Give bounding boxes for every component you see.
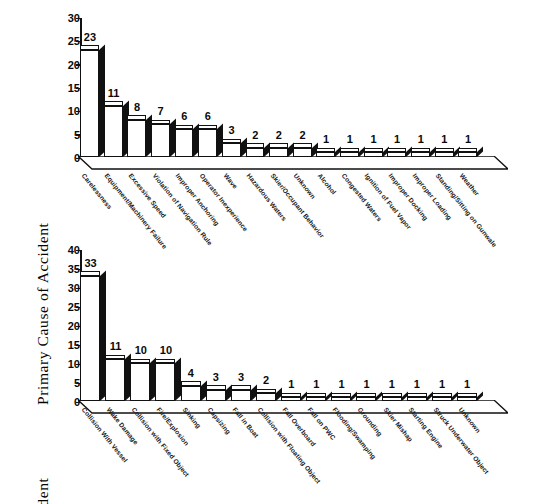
bar-face bbox=[387, 152, 406, 157]
x-label-cause-ignition-of-fuel-vapor: Ignition of Fuel Vapor bbox=[364, 172, 413, 231]
x-label-cause-improper-anchoring: Improper Anchoring bbox=[175, 172, 221, 227]
x-axis-category-labels-type: Collision With VesselWake DamageCollisio… bbox=[0, 406, 535, 496]
bar-top bbox=[256, 389, 276, 394]
bar-face bbox=[222, 143, 241, 157]
x-label-type-collision-with-vessel: Collision With Vessel bbox=[81, 406, 129, 464]
bar-face bbox=[435, 152, 454, 157]
bar-type-wake-damage: 11 bbox=[105, 353, 125, 401]
x-label-type-grounding: Grounding bbox=[357, 406, 384, 437]
x-label-cause-unknown: Unknown bbox=[293, 172, 318, 200]
bar-cause-alcohol: 1 bbox=[316, 146, 335, 157]
bar-value-label: 4 bbox=[188, 368, 194, 379]
bar-top bbox=[181, 381, 201, 386]
x-label-cause-weather: Weather bbox=[459, 172, 481, 197]
bar-cause-equipment-machinery-failure: 11 bbox=[104, 100, 123, 157]
bar-face bbox=[246, 148, 265, 157]
bar-face bbox=[256, 393, 276, 401]
bar-top bbox=[105, 355, 125, 360]
bar-face bbox=[155, 363, 175, 401]
bar-top bbox=[104, 101, 123, 106]
bar-type-fall-overboard: 1 bbox=[281, 391, 301, 401]
bar-value-label: 1 bbox=[313, 379, 319, 390]
bar-value-label: 8 bbox=[134, 102, 140, 113]
bar-face bbox=[181, 386, 201, 401]
bar-top bbox=[80, 45, 99, 50]
bar-type-sinking: 4 bbox=[181, 380, 201, 401]
bar-top bbox=[306, 393, 326, 398]
bar-type-starting-engine: 1 bbox=[407, 391, 427, 401]
chart-primary-cause-of-accident: Primary Cause of Accident 051015202530 2… bbox=[0, 0, 535, 252]
bar-face bbox=[356, 397, 376, 401]
bar-top bbox=[340, 148, 359, 153]
bar-face bbox=[281, 397, 301, 401]
bar-value-label: 10 bbox=[160, 345, 172, 356]
bar-series-type: 33111010433211111111 bbox=[78, 237, 508, 401]
bar-top bbox=[364, 148, 383, 153]
bar-value-label: 1 bbox=[414, 379, 420, 390]
bar-face bbox=[231, 390, 251, 401]
bar-top bbox=[175, 125, 194, 130]
bar-face bbox=[331, 397, 351, 401]
bar-value-label: 7 bbox=[158, 106, 164, 117]
bar-type-collision-with-fixed-object: 10 bbox=[130, 357, 150, 401]
bar-top bbox=[382, 393, 402, 398]
bar-value-label: 1 bbox=[394, 134, 400, 145]
bar-type-flooding-swamping: 1 bbox=[331, 391, 351, 401]
bar-face bbox=[206, 390, 226, 401]
bar-cause-improper-docking: 1 bbox=[387, 146, 406, 157]
bar-face bbox=[407, 397, 427, 401]
bar-type-collision-with-floating-object: 2 bbox=[256, 387, 276, 401]
bar-value-label: 3 bbox=[213, 372, 219, 383]
bar-cause-wave: 3 bbox=[222, 137, 241, 157]
plot-area-cause: 2311876632221111111 bbox=[78, 18, 508, 170]
bar-top bbox=[432, 393, 452, 398]
bar-value-label: 6 bbox=[181, 111, 187, 122]
bar-value-label: 1 bbox=[441, 134, 447, 145]
bar-top bbox=[155, 359, 175, 364]
bar-value-label: 1 bbox=[338, 379, 344, 390]
bar-cause-standing-sitting-on-gunwale: 1 bbox=[435, 146, 454, 157]
bar-value-label: 2 bbox=[252, 130, 258, 141]
bar-cause-improper-anchoring: 6 bbox=[175, 123, 194, 157]
bar-face bbox=[175, 129, 194, 157]
bar-cause-weather: 1 bbox=[458, 146, 477, 157]
bar-top bbox=[206, 385, 226, 390]
bar-face bbox=[80, 50, 99, 157]
x-label-type-fall-in-boat: Fall in Boat bbox=[231, 406, 260, 439]
bar-value-label: 23 bbox=[84, 32, 96, 43]
bar-cause-excessive-speed: 8 bbox=[127, 114, 146, 157]
y-axis-type: 0510152025303540 bbox=[58, 250, 80, 402]
bar-value-label: 1 bbox=[370, 134, 376, 145]
bar-cause-carelessness: 23 bbox=[80, 44, 99, 157]
bar-value-label: 6 bbox=[205, 111, 211, 122]
bar-face bbox=[293, 148, 312, 157]
bar-cause-congested-waters: 1 bbox=[340, 146, 359, 157]
bar-top bbox=[151, 120, 170, 125]
bar-top bbox=[246, 143, 265, 148]
bar-face bbox=[269, 148, 288, 157]
bar-type-fall-on-pwc: 1 bbox=[306, 391, 326, 401]
bar-top bbox=[435, 148, 454, 153]
bar-face bbox=[411, 152, 430, 157]
bar-top bbox=[316, 148, 335, 153]
figure-page: Primary Cause of Accident 051015202530 2… bbox=[0, 0, 535, 504]
bar-cause-unknown: 2 bbox=[293, 142, 312, 157]
bar-value-label: 3 bbox=[238, 372, 244, 383]
bar-face bbox=[151, 124, 170, 157]
bar-face bbox=[340, 152, 359, 157]
bar-face bbox=[316, 152, 335, 157]
bar-face bbox=[432, 397, 452, 401]
bar-type-unknown: 1 bbox=[457, 391, 477, 401]
bar-type-fire-explosion: 10 bbox=[155, 357, 175, 401]
bar-top bbox=[458, 148, 477, 153]
bar-face bbox=[306, 397, 326, 401]
bar-cause-operator-inexperience: 6 bbox=[198, 123, 217, 157]
bar-top bbox=[411, 148, 430, 153]
bar-side bbox=[477, 147, 483, 157]
bar-value-label: 1 bbox=[389, 379, 395, 390]
bar-top bbox=[387, 148, 406, 153]
bar-type-fall-in-boat: 3 bbox=[231, 384, 251, 401]
bar-top bbox=[222, 139, 241, 144]
bar-value-label: 2 bbox=[263, 375, 269, 386]
x-label-type-flooding-swamping: Flooding/Swamping bbox=[332, 406, 378, 460]
